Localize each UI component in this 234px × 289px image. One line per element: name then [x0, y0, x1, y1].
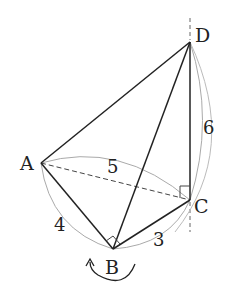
label-a: A [19, 152, 34, 174]
length-bc: 3 [153, 229, 164, 250]
length-ac: 5 [107, 156, 118, 177]
label-b: B [105, 256, 119, 278]
length-ab: 4 [54, 214, 65, 235]
edge-ab [41, 163, 113, 249]
edge-bc [113, 200, 190, 249]
tetrahedron-diagram: A B C D 6 5 4 3 [0, 0, 234, 289]
label-d: D [195, 24, 210, 46]
label-c: C [194, 195, 209, 217]
arc-cd [190, 42, 203, 200]
length-cd: 6 [203, 117, 214, 138]
